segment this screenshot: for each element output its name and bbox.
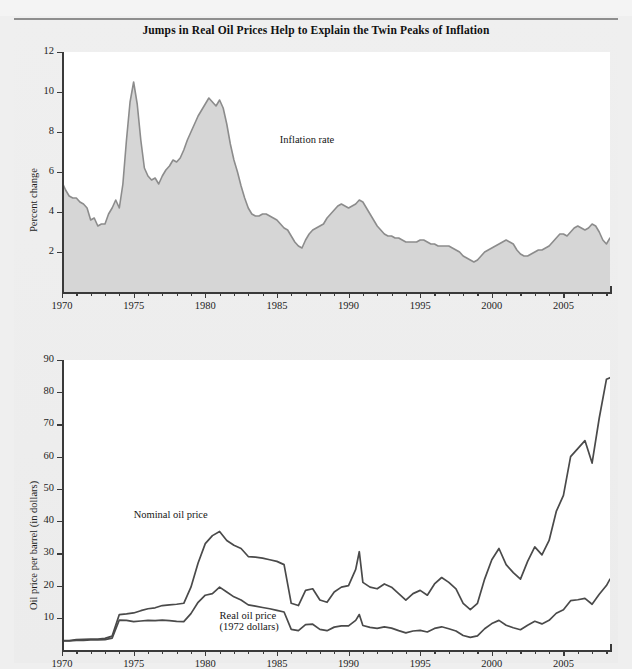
x-tick-minor bbox=[434, 650, 435, 654]
x-tick-minor bbox=[549, 650, 550, 654]
x-tick-major bbox=[134, 292, 135, 298]
x-tick-minor bbox=[248, 292, 249, 296]
x-tick-minor bbox=[392, 292, 393, 296]
x-tick-minor bbox=[520, 650, 521, 654]
y-tick bbox=[57, 424, 62, 425]
x-tick-label: 2005 bbox=[541, 658, 585, 669]
x-tick-label: 1995 bbox=[398, 658, 442, 669]
y-tick-label: 12 bbox=[28, 45, 54, 56]
oil-plot-area bbox=[62, 360, 610, 650]
x-tick-major bbox=[62, 650, 63, 656]
y-tick-label: 70 bbox=[28, 417, 54, 428]
x-tick-label: 1975 bbox=[112, 300, 156, 311]
y-tick bbox=[57, 392, 62, 393]
x-tick-major bbox=[349, 292, 350, 298]
y-tick bbox=[57, 489, 62, 490]
x-tick-minor bbox=[463, 292, 464, 296]
x-tick-minor bbox=[578, 650, 579, 654]
inflation-y-axis-title: Percent change bbox=[28, 168, 39, 232]
x-tick-minor bbox=[520, 292, 521, 296]
y-tick bbox=[57, 586, 62, 587]
x-tick-major bbox=[62, 292, 63, 298]
x-tick-minor bbox=[291, 292, 292, 296]
x-tick-minor bbox=[535, 292, 536, 296]
x-tick-label: 1990 bbox=[327, 300, 371, 311]
y-tick bbox=[57, 172, 62, 173]
y-axis-line bbox=[62, 360, 64, 650]
y-tick bbox=[57, 618, 62, 619]
x-tick-minor bbox=[191, 650, 192, 654]
x-tick-minor bbox=[119, 650, 120, 654]
x-tick-label: 1990 bbox=[327, 658, 371, 669]
x-tick-minor bbox=[334, 292, 335, 296]
x-tick-minor bbox=[392, 650, 393, 654]
x-tick-minor bbox=[76, 292, 77, 296]
real-oil-price-label: Real oil price bbox=[220, 610, 277, 622]
x-tick-major bbox=[420, 650, 421, 656]
y-tick-label: 8 bbox=[28, 125, 54, 136]
x-tick-minor bbox=[363, 292, 364, 296]
x-tick-minor bbox=[263, 292, 264, 296]
x-tick-minor bbox=[434, 292, 435, 296]
x-tick-major bbox=[563, 292, 564, 298]
y-tick bbox=[57, 360, 62, 361]
x-tick-minor bbox=[406, 292, 407, 296]
y-tick bbox=[57, 52, 62, 53]
x-tick-label: 2000 bbox=[470, 658, 514, 669]
x-tick-minor bbox=[162, 650, 163, 654]
x-tick-minor bbox=[535, 650, 536, 654]
x-tick-minor bbox=[606, 650, 607, 654]
x-tick-minor bbox=[263, 650, 264, 654]
x-axis-right-cap bbox=[610, 644, 612, 650]
x-tick-minor bbox=[105, 292, 106, 296]
y-tick bbox=[57, 212, 62, 213]
x-tick-minor bbox=[248, 650, 249, 654]
inflation-plot-area bbox=[62, 52, 610, 292]
x-tick-minor bbox=[220, 650, 221, 654]
inflation-series-annotation: Inflation rate bbox=[280, 134, 335, 146]
x-tick-minor bbox=[449, 292, 450, 296]
x-tick-label: 1985 bbox=[255, 300, 299, 311]
y-tick bbox=[57, 92, 62, 93]
x-tick-minor bbox=[477, 292, 478, 296]
x-tick-major bbox=[420, 292, 421, 298]
x-tick-minor bbox=[463, 650, 464, 654]
x-tick-minor bbox=[162, 292, 163, 296]
x-tick-label: 1980 bbox=[183, 300, 227, 311]
x-axis-right-cap bbox=[610, 286, 612, 292]
y-tick bbox=[57, 252, 62, 253]
x-tick-major bbox=[205, 292, 206, 298]
x-tick-minor bbox=[578, 292, 579, 296]
oil-y-axis-title: Oil price per barrel (in dollars) bbox=[28, 481, 39, 610]
y-tick bbox=[57, 521, 62, 522]
oil-price-chart-panel: 1020304050607080901970197519801985199019… bbox=[0, 320, 632, 669]
x-tick-minor bbox=[377, 292, 378, 296]
y-axis-line bbox=[62, 52, 64, 292]
x-tick-major bbox=[349, 650, 350, 656]
y-tick bbox=[57, 132, 62, 133]
x-tick-minor bbox=[234, 292, 235, 296]
x-tick-minor bbox=[363, 650, 364, 654]
inflation-chart-panel: 2468101219701975198019851990199520002005… bbox=[0, 0, 632, 320]
x-tick-minor bbox=[234, 650, 235, 654]
x-tick-minor bbox=[592, 292, 593, 296]
x-tick-minor bbox=[105, 650, 106, 654]
x-tick-minor bbox=[506, 650, 507, 654]
x-tick-minor bbox=[506, 292, 507, 296]
series-area-0 bbox=[62, 82, 610, 292]
x-tick-major bbox=[492, 292, 493, 298]
nominal-oil-price-label: Nominal oil price bbox=[134, 509, 208, 521]
x-tick-major bbox=[277, 292, 278, 298]
y-tick-label: 60 bbox=[28, 450, 54, 461]
x-tick-minor bbox=[76, 650, 77, 654]
x-tick-major bbox=[277, 650, 278, 656]
x-tick-minor bbox=[320, 650, 321, 654]
x-tick-major bbox=[563, 650, 564, 656]
x-tick-minor bbox=[306, 292, 307, 296]
x-tick-minor bbox=[334, 650, 335, 654]
x-tick-minor bbox=[606, 292, 607, 296]
x-tick-label: 1970 bbox=[40, 300, 84, 311]
x-tick-major bbox=[492, 650, 493, 656]
x-tick-label: 1975 bbox=[112, 658, 156, 669]
x-tick-minor bbox=[320, 292, 321, 296]
